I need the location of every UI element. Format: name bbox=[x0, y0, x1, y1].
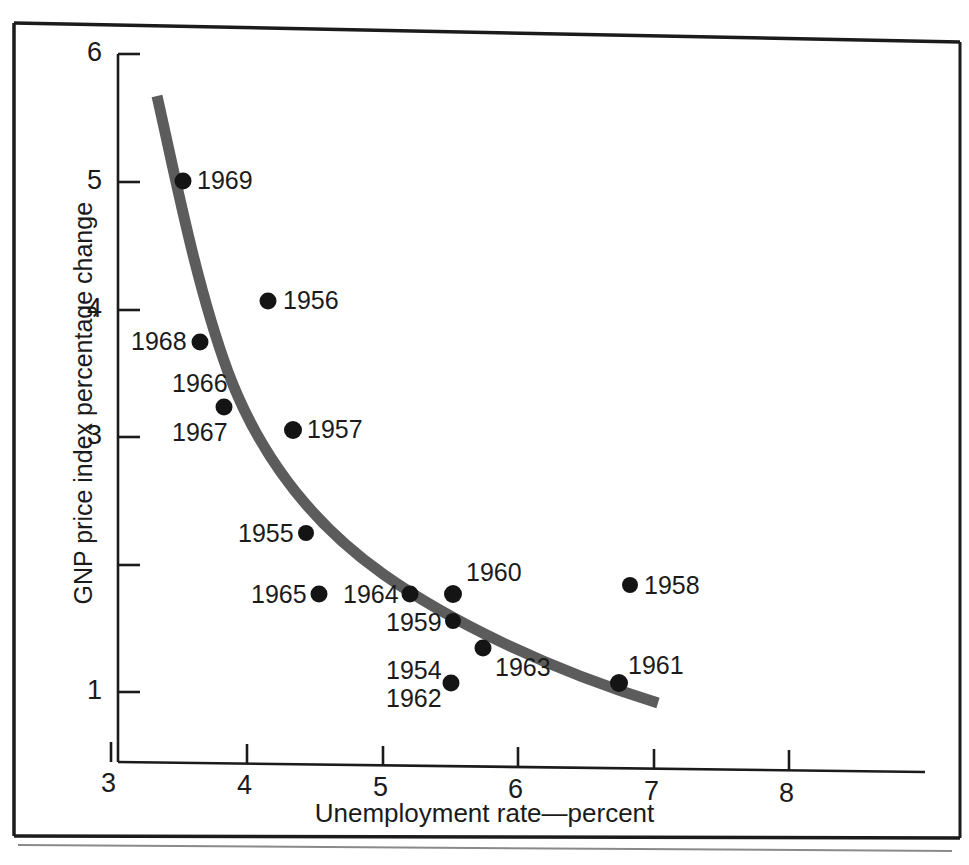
data-point-1964[interactable] bbox=[402, 586, 419, 603]
x-axis bbox=[111, 742, 925, 772]
data-point-1965[interactable] bbox=[311, 586, 328, 603]
y-tick-label-6: 6 bbox=[74, 39, 102, 66]
data-point-1966-1967[interactable] bbox=[216, 399, 233, 416]
data-point-1969[interactable] bbox=[175, 173, 192, 190]
point-label-1963: 1963 bbox=[495, 655, 551, 680]
data-point-1954-1962[interactable] bbox=[443, 675, 460, 692]
data-point-1961[interactable] bbox=[610, 674, 628, 692]
data-point-1959[interactable] bbox=[445, 613, 461, 629]
point-label-1956: 1956 bbox=[283, 288, 339, 313]
y-tick-label-5: 5 bbox=[74, 167, 102, 194]
point-label-1959: 1959 bbox=[386, 610, 442, 635]
y-tick-label-1: 1 bbox=[74, 677, 102, 704]
point-label-1968: 1968 bbox=[131, 329, 187, 354]
data-point-1958[interactable] bbox=[622, 577, 638, 593]
data-point-1957[interactable] bbox=[284, 421, 302, 439]
point-label-1967: 1967 bbox=[172, 420, 228, 445]
point-label-1966: 1966 bbox=[172, 371, 228, 396]
x-tick-label-5: 5 bbox=[373, 774, 388, 801]
point-label-1965: 1965 bbox=[251, 582, 307, 607]
point-label-1962: 1962 bbox=[386, 686, 442, 711]
point-label-1957: 1957 bbox=[307, 417, 363, 442]
figure-page: 6 5 4 3 1 3 4 5 6 7 8 GNP price index pe… bbox=[0, 0, 969, 865]
data-point-1968[interactable] bbox=[192, 334, 209, 351]
y-axis bbox=[118, 54, 140, 762]
data-point-1960[interactable] bbox=[444, 585, 462, 603]
y-axis-title: GNP price index percentage change bbox=[69, 205, 98, 605]
x-axis-title: Unemployment rate—percent bbox=[0, 798, 969, 829]
x-tick-label-3: 3 bbox=[101, 770, 116, 797]
point-label-1964: 1964 bbox=[343, 582, 399, 607]
point-label-1969: 1969 bbox=[197, 168, 253, 193]
data-point-1963[interactable] bbox=[475, 640, 492, 657]
x-tick-label-4: 4 bbox=[237, 772, 252, 799]
point-label-1961: 1961 bbox=[628, 653, 684, 678]
scatter-plot bbox=[0, 0, 969, 865]
data-point-1956[interactable] bbox=[260, 293, 277, 310]
point-label-1955: 1955 bbox=[238, 521, 294, 546]
point-label-1960: 1960 bbox=[466, 560, 522, 585]
point-label-1954: 1954 bbox=[386, 658, 442, 683]
data-point-1955[interactable] bbox=[298, 525, 314, 541]
point-label-1958: 1958 bbox=[644, 573, 700, 598]
